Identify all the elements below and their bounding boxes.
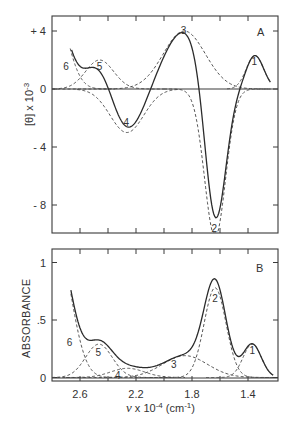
band-6-curve [71, 294, 150, 378]
y-tick-label: - 8 [33, 199, 46, 211]
band-label-6: 6 [63, 61, 69, 72]
band-label-5: 5 [97, 61, 103, 72]
panel-b-band-labels: 123456 [67, 293, 256, 381]
panel-a-label: A [257, 26, 265, 38]
x-tick-labels: 2.62.21.81.4 [72, 388, 255, 400]
panel-b-y-tick-labels: 1.50 [37, 257, 46, 384]
band-5-curve [52, 344, 171, 377]
panel-b: 1.50 123456 B ABSORBANCE [20, 249, 278, 384]
band-label-5: 5 [95, 347, 101, 358]
x-label-unit: (cm [163, 402, 184, 414]
band-label-2: 2 [212, 223, 218, 234]
band-label-6: 6 [67, 337, 73, 348]
panel-b-y-axis-label: ABSORBANCE [20, 279, 32, 358]
panel-b-ticks [52, 249, 278, 381]
panel-b-frame [52, 249, 278, 381]
y-tick-label: .5 [37, 314, 46, 326]
band-label-1: 1 [252, 56, 258, 67]
x-axis-label: ν x 10-4 (cm-1) [126, 400, 195, 415]
panel-a-band-labels: 123456 [63, 25, 257, 235]
band-3-curve [52, 356, 273, 378]
band-6-curve [70, 49, 115, 89]
band-label-4: 4 [115, 370, 121, 381]
x-label-rest: x 10 [132, 402, 156, 414]
band-label-3: 3 [181, 25, 187, 36]
x-tick-label: 2.6 [72, 388, 87, 400]
panel-a-y-axis-label: [θ] x 10-3 [22, 82, 35, 126]
panel-a-y-label-main: [θ] x 10 [23, 90, 35, 126]
panel-a-ticks [52, 16, 278, 233]
figure: + 40- 4- 8 123456 A [θ] x 10-3 1.50 1234… [0, 0, 292, 430]
band-label-4: 4 [123, 117, 129, 128]
y-tick-label: + 4 [30, 25, 46, 37]
panel-a-y-label-exp: -3 [22, 82, 31, 90]
x-label-close: ) [191, 402, 195, 414]
panel-b-component-bands [52, 288, 273, 378]
band-3-curve [52, 31, 270, 89]
panel-b-label: B [256, 262, 263, 274]
band-label-2: 2 [212, 293, 218, 304]
x-tick-label: 2.2 [128, 388, 143, 400]
band-2-curve [164, 89, 270, 232]
y-tick-label: 0 [40, 83, 46, 95]
y-tick-label: - 4 [33, 141, 46, 153]
panel-a-frame [52, 16, 278, 233]
x-tick-label: 1.8 [184, 388, 199, 400]
y-tick-label: 1 [40, 257, 46, 269]
band-1-curve [227, 56, 270, 89]
panel-a: + 40- 4- 8 123456 A [θ] x 10-3 [22, 16, 278, 234]
y-tick-label: 0 [40, 372, 46, 384]
band-label-3: 3 [171, 359, 177, 370]
band-label-1: 1 [249, 345, 255, 356]
x-tick-label: 1.4 [240, 388, 255, 400]
